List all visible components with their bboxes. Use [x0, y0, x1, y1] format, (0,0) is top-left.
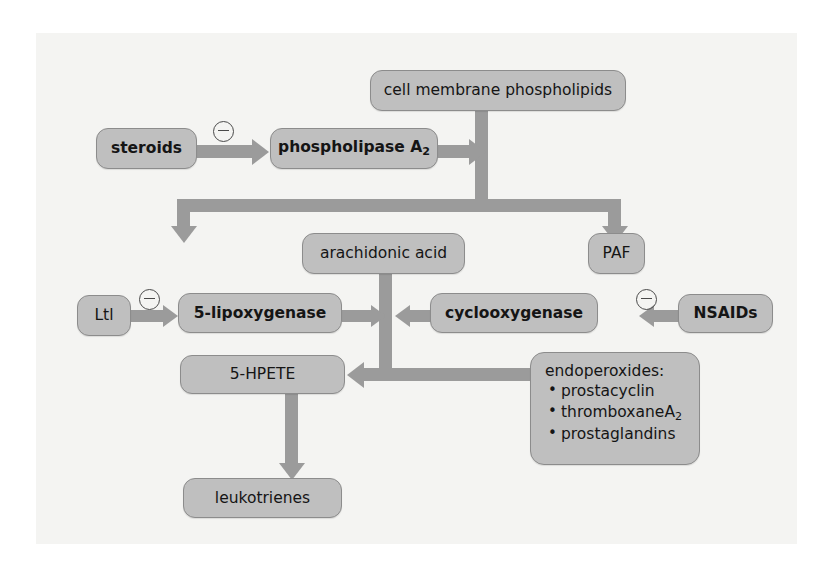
- arrow-ltl-to-lipoxygenase-head: [163, 305, 178, 327]
- pathway-diagram: cell membrane phospholipids steroids pho…: [36, 33, 797, 544]
- leg-to-paf-shaft: [608, 199, 621, 229]
- list-item: prostacyclin: [559, 382, 687, 402]
- node-label: PAF: [603, 244, 631, 263]
- node-5-lipoxygenase[interactable]: 5-lipoxygenase: [178, 293, 342, 333]
- inhibition-icon-steroids: [213, 121, 234, 142]
- node-nsaids[interactable]: NSAIDs: [678, 294, 773, 333]
- node-cell-membrane-phospholipids[interactable]: cell membrane phospholipids: [370, 70, 626, 111]
- node-label: cyclooxygenase: [445, 304, 583, 323]
- endoperoxides-header: endoperoxides:: [545, 362, 687, 381]
- inhibition-icon-ltl: [139, 289, 160, 310]
- trunk-arachidonic-horizontal: [364, 368, 540, 381]
- node-label: cell membrane phospholipids: [384, 81, 612, 100]
- arrow-lipoxygenase-to-center-shaft: [342, 310, 374, 322]
- arrow-lipoxygenase-to-center-head: [371, 305, 386, 327]
- node-steroids[interactable]: steroids: [96, 128, 197, 169]
- node-label: 5-lipoxygenase: [194, 304, 327, 323]
- arrow-to-hpete-head: [347, 362, 364, 388]
- node-phospholipase-a2[interactable]: phospholipase A2: [270, 128, 438, 169]
- node-label: phospholipase A2: [278, 138, 430, 158]
- arrow-phospholipase-to-junction-shaft: [432, 145, 472, 158]
- node-label: NSAIDs: [694, 304, 758, 323]
- leg-to-arachidonic-shaft: [177, 199, 190, 229]
- node-label: 5-HPETE: [230, 365, 296, 384]
- node-label: Ltl: [94, 306, 113, 325]
- node-5-hpete[interactable]: 5-HPETE: [180, 355, 345, 394]
- node-leukotrienes[interactable]: leukotrienes: [183, 478, 342, 518]
- node-cyclooxygenase[interactable]: cyclooxygenase: [430, 293, 598, 333]
- arrow-ltl-to-lipoxygenase-shaft: [131, 310, 166, 322]
- arrow-steroids-to-phospholipase-shaft: [195, 145, 255, 158]
- list-item: thromboxaneA2: [559, 403, 687, 423]
- node-label: steroids: [111, 139, 182, 158]
- list-item: prostaglandins: [559, 425, 687, 445]
- node-ltl[interactable]: Ltl: [77, 295, 131, 336]
- arrow-phospholipase-to-junction-head: [469, 139, 486, 165]
- inhibition-icon-nsaids: [636, 289, 657, 310]
- arrow-steroids-to-phospholipase-head: [252, 139, 269, 165]
- endoperoxides-list: prostacyclin thromboxaneA2 prostaglandin…: [545, 382, 687, 445]
- arrow-hpete-to-leukotrienes-shaft: [285, 391, 298, 466]
- node-paf[interactable]: PAF: [588, 233, 645, 274]
- node-arachidonic-acid[interactable]: arachidonic acid: [302, 233, 465, 274]
- node-endoperoxides[interactable]: endoperoxides: prostacyclin thromboxaneA…: [530, 352, 700, 465]
- node-label: arachidonic acid: [320, 244, 447, 263]
- arrow-cyclooxygenase-to-center-head: [395, 305, 410, 327]
- node-label: leukotrienes: [215, 489, 310, 508]
- trunk-membrane-horizontal: [177, 199, 621, 212]
- leg-to-arachidonic-head: [171, 226, 197, 243]
